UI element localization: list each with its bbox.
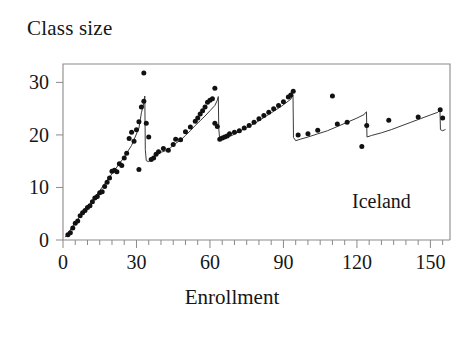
data-point [75,219,80,224]
data-point [100,189,105,194]
axis-frame [63,64,450,240]
y-axis-title: Class size [27,16,112,41]
x-tick-label: 90 [273,251,293,273]
x-tick-label: 120 [342,251,372,273]
data-point [281,99,286,104]
y-axis-tick-labels: 0102030 [29,71,49,251]
data-point [364,123,369,128]
data-point [114,169,119,174]
x-tick-label: 30 [126,251,146,273]
x-axis-title: Enrollment [0,285,464,310]
data-point [136,167,141,172]
data-point [173,137,178,142]
data-point [107,176,112,181]
data-point [242,126,247,131]
data-point [291,89,296,94]
data-point [124,151,129,156]
x-tick-label: 150 [415,251,445,273]
data-point [119,163,124,168]
data-point [134,127,139,132]
data-point [144,121,149,126]
data-point [305,131,310,136]
data-point [345,120,350,125]
data-point [266,110,271,115]
country-annotation: Iceland [352,190,411,213]
data-point [156,149,161,154]
plot-frame [63,64,450,240]
y-tick-label: 10 [29,176,49,198]
data-point [178,137,183,142]
data-point [136,119,141,124]
data-point [127,136,132,141]
data-point [261,113,266,118]
data-point [330,94,335,99]
data-point [132,139,137,144]
data-point [247,123,252,128]
data-point [386,118,391,123]
data-point [315,128,320,133]
data-point [227,131,232,136]
data-point [438,107,443,112]
data-point [440,116,445,121]
y-tick-label: 20 [29,124,49,146]
data-point [271,106,276,111]
data-point [335,121,340,126]
y-axis-ticks [56,82,63,240]
data-point [166,148,171,153]
data-point [212,86,217,91]
data-point [215,124,220,129]
data-point [210,96,215,101]
data-point [141,99,146,104]
x-tick-label: 0 [58,251,68,273]
data-point [256,116,261,121]
data-point [276,103,281,108]
x-axis-tick-labels: 0306090120150 [58,251,445,273]
x-axis-ticks [63,240,443,248]
data-point [129,130,134,135]
data-point [252,120,257,125]
data-point [232,130,237,135]
data-point [161,146,166,151]
data-point [237,128,242,133]
x-tick-label: 60 [200,251,220,273]
data-point [171,142,176,147]
data-point [139,105,144,110]
data-point [146,135,151,140]
data-point [296,132,301,137]
data-point [87,203,92,208]
chart-figure: Class size 0306090120150 0102030 Iceland… [0,0,464,345]
data-point [416,115,421,120]
data-point [203,105,208,110]
y-tick-label: 0 [39,229,49,251]
data-point [68,230,73,235]
data-point [122,156,127,161]
data-point [195,116,200,121]
data-point [183,129,188,134]
data-point [102,184,107,189]
data-point [70,225,75,230]
data-point [141,70,146,75]
data-point [359,144,364,149]
y-tick-label: 30 [29,71,49,93]
data-point [188,125,193,130]
data-point [105,180,110,185]
